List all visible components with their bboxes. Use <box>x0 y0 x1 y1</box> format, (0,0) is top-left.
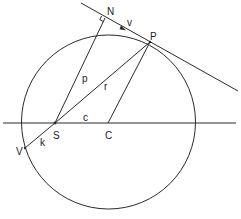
point-s-dot <box>54 122 57 125</box>
label-v-point: V <box>16 146 23 157</box>
tangent-line <box>81 3 238 91</box>
label-v-velocity: v <box>127 17 132 28</box>
label-r: r <box>104 81 108 92</box>
label-c-center: C <box>105 130 112 141</box>
geometry-diagram: N v P p r c S C k V <box>0 0 241 219</box>
point-v-dot <box>24 147 26 149</box>
label-c-distance: c <box>83 112 88 123</box>
label-p-point: P <box>150 31 157 42</box>
label-k: k <box>40 137 46 148</box>
label-s: S <box>53 130 60 141</box>
center-to-p-line <box>108 42 150 123</box>
radius-vector-r-line <box>55 42 150 123</box>
label-p-length: p <box>82 73 88 84</box>
label-n: N <box>107 6 114 17</box>
perpendicular-p-line <box>55 18 105 123</box>
right-angle-marker <box>100 16 104 22</box>
